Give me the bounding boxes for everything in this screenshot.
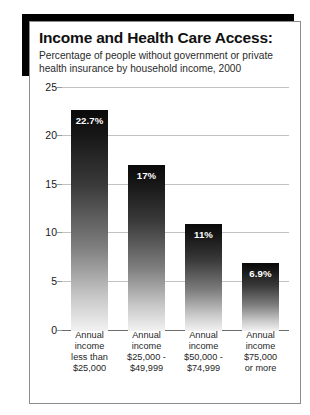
- category-label-line: $25,000: [61, 363, 118, 374]
- category-label-line: Annual: [175, 330, 232, 341]
- category-label: Annualincome$25,000 -$49,999: [118, 330, 175, 375]
- category-axis-labels: Annualincomeless than$25,000Annualincome…: [61, 331, 289, 375]
- bars-layer: 22.7%17%11%6.9%: [61, 88, 289, 331]
- plot-wrapper: 051015202522.7%17%11%6.9% Annualincomele…: [39, 80, 293, 375]
- bar: 22.7%: [71, 110, 107, 331]
- category-label-line: or more: [232, 363, 289, 374]
- category-label-line: income: [175, 341, 232, 352]
- chart-subtitle: Percentage of people without government …: [39, 50, 291, 76]
- bar-value-label: 11%: [185, 229, 221, 240]
- y-tick-label-5: 5: [51, 275, 57, 287]
- category-label-line: Annual: [118, 330, 175, 341]
- y-tick-label-0: 0: [51, 324, 57, 336]
- chart-figure: Income and Health Care Access: Percentag…: [0, 0, 310, 415]
- category-label-line: $50,000 -: [175, 352, 232, 363]
- category-label: Annualincome$50,000 -$74,999: [175, 330, 232, 375]
- category-label-line: income: [118, 341, 175, 352]
- bar: 17%: [128, 165, 164, 330]
- category-label-line: income: [61, 341, 118, 352]
- category-label-line: $75,000: [232, 352, 289, 363]
- chart-card: Income and Health Care Access: Percentag…: [29, 21, 301, 404]
- category-label: Annualincome$75,000or more: [232, 330, 289, 375]
- y-tick-label-15: 15: [45, 178, 57, 190]
- category-label-line: Annual: [232, 330, 289, 341]
- y-tick-label-25: 25: [45, 81, 57, 93]
- y-tick-label-10: 10: [45, 226, 57, 238]
- category-label-line: $74,999: [175, 363, 232, 374]
- category-label-line: income: [232, 341, 289, 352]
- bar-value-label: 6.9%: [242, 268, 278, 279]
- bar-value-label: 22.7%: [71, 115, 107, 126]
- category-label-line: $49,999: [118, 363, 175, 374]
- category-label-line: less than: [61, 352, 118, 363]
- chart-title: Income and Health Care Access:: [39, 29, 291, 47]
- category-label: Annualincomeless than$25,000: [61, 330, 118, 375]
- plot-area: 051015202522.7%17%11%6.9%: [61, 88, 289, 331]
- chart-card-content: Income and Health Care Access: Percentag…: [30, 22, 300, 403]
- bar: 6.9%: [242, 263, 278, 330]
- category-label-line: Annual: [61, 330, 118, 341]
- category-label-line: $25,000 -: [118, 352, 175, 363]
- bar: 11%: [185, 224, 221, 331]
- bar-value-label: 17%: [128, 170, 164, 181]
- y-tick-label-20: 20: [45, 129, 57, 141]
